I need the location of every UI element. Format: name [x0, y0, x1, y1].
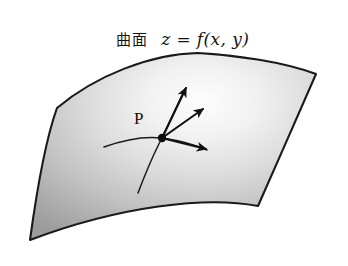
surface-patch-group	[30, 53, 316, 240]
figure-container: 曲面z = f(x, y)	[0, 0, 348, 266]
surface-patch	[30, 53, 316, 240]
surface-diagram: P	[0, 0, 348, 266]
point-p-marker	[158, 134, 166, 142]
point-p-label: P	[134, 109, 143, 128]
